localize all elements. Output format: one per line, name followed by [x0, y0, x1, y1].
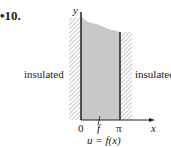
- f-label: f: [97, 122, 100, 134]
- right-insulation-hatch: [120, 32, 132, 120]
- x-axis-label: x: [151, 122, 156, 134]
- origin-label: 0: [78, 122, 84, 134]
- label-insulated-left: insulated: [24, 68, 64, 80]
- equation-label: u = f(x): [87, 134, 121, 146]
- left-insulation-hatch: [69, 18, 81, 120]
- pi-label: π: [116, 122, 122, 134]
- heated-region: [81, 16, 120, 120]
- label-insulated-right: insulatec: [135, 68, 171, 80]
- problem-number: •10.: [0, 8, 21, 24]
- y-axis-label: y: [73, 4, 78, 16]
